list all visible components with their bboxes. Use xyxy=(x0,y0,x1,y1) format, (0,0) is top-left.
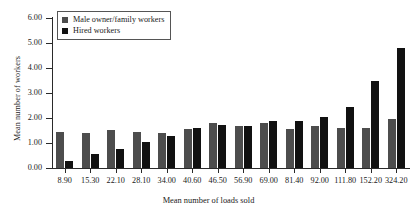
chart-legend: Male owner/family workers Hired workers xyxy=(57,11,171,40)
bar xyxy=(260,123,268,169)
x-axis-line xyxy=(52,168,410,169)
x-axis-tick xyxy=(345,168,346,173)
bar xyxy=(82,133,90,168)
x-axis-tick xyxy=(294,168,295,173)
x-axis-tick xyxy=(116,168,117,173)
bar xyxy=(107,130,115,168)
bar xyxy=(346,107,354,168)
legend-item-hired-workers: Hired workers xyxy=(62,25,164,36)
y-axis-tick-label: 2.00 xyxy=(8,114,42,122)
y-axis-tick-label: 1.00 xyxy=(8,139,42,147)
y-axis-tick-label: 0.00 xyxy=(8,164,42,172)
bar xyxy=(158,133,166,169)
y-axis-tick-label: 5.00 xyxy=(8,39,42,47)
legend-swatch-icon xyxy=(62,28,68,34)
bar xyxy=(91,154,99,168)
bar xyxy=(397,48,405,168)
bar xyxy=(320,117,328,168)
x-axis-tick xyxy=(371,168,372,173)
bar xyxy=(371,81,379,169)
bar xyxy=(337,128,345,169)
x-axis-tick xyxy=(141,168,142,173)
bar xyxy=(167,136,175,169)
bar xyxy=(133,132,141,168)
y-axis-tick-label: 6.00 xyxy=(8,14,42,22)
bar xyxy=(286,129,294,169)
bar xyxy=(362,128,370,168)
y-axis-tick-label: 4.00 xyxy=(8,64,42,72)
x-axis-title: Mean number of loads sold xyxy=(0,196,417,205)
bar xyxy=(311,126,319,168)
bar xyxy=(142,142,150,168)
bar xyxy=(388,119,396,168)
bar xyxy=(218,125,226,168)
x-axis-tick xyxy=(167,168,168,173)
y-axis-title: Mean number of workers xyxy=(13,29,22,169)
x-axis-tick xyxy=(192,168,193,173)
bar xyxy=(193,128,201,169)
x-axis-tick xyxy=(320,168,321,173)
y-axis-tick xyxy=(46,168,52,169)
bar xyxy=(56,132,64,168)
x-axis-tick xyxy=(396,168,397,173)
bar xyxy=(269,121,277,168)
bar xyxy=(235,126,243,169)
bar xyxy=(244,126,252,169)
x-axis-tick xyxy=(90,168,91,173)
bar-chart: Mean number of workers 0.001.002.003.004… xyxy=(0,0,417,218)
y-axis-tick-label: 3.00 xyxy=(8,89,42,97)
bar xyxy=(116,149,124,169)
legend-swatch-icon xyxy=(62,17,68,23)
legend-item-label: Male owner/family workers xyxy=(73,15,164,24)
x-axis-tick xyxy=(269,168,270,173)
plot-area xyxy=(52,18,409,168)
x-axis-tick xyxy=(243,168,244,173)
bar xyxy=(184,129,192,168)
bar xyxy=(65,161,73,168)
x-axis-tick-label: 324.20 xyxy=(373,176,417,185)
bar xyxy=(295,121,303,168)
legend-item-male-owner-family-workers: Male owner/family workers xyxy=(62,14,164,25)
x-axis-tick xyxy=(218,168,219,173)
bar xyxy=(209,123,217,168)
legend-item-label: Hired workers xyxy=(73,26,120,35)
x-axis-tick xyxy=(65,168,66,173)
